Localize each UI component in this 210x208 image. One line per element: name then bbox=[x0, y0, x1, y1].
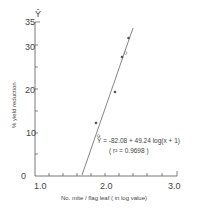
y-hat-label: Ŷ bbox=[35, 9, 41, 19]
x-ticks bbox=[49, 171, 177, 176]
y-tick-20: 20 bbox=[25, 85, 35, 95]
y-axis-label: % yield reduction bbox=[11, 82, 17, 128]
x-tick-1: 1.0 bbox=[34, 181, 47, 191]
regression-equation: Ŷ = -82.08 + 49.24 log(x + 1) bbox=[97, 136, 180, 145]
chart: 35 30 20 10 0 1.0 2.0 3.0 Ŷ % yield redu… bbox=[0, 0, 210, 208]
r-squared: ( r² = 0.9698 ) bbox=[109, 147, 149, 155]
x-tick-3: 3.0 bbox=[168, 181, 181, 191]
y-tick-30: 30 bbox=[25, 42, 35, 52]
y-tick-35: 35 bbox=[25, 17, 35, 27]
x-axis-label: No. mite / flag leaf ( in log value) bbox=[61, 195, 147, 201]
data-point bbox=[127, 37, 130, 40]
data-point bbox=[95, 122, 98, 125]
y-tick-10: 10 bbox=[26, 128, 36, 138]
data-point bbox=[114, 91, 117, 94]
data-point bbox=[121, 56, 124, 59]
y-tick-0: 0 bbox=[21, 171, 26, 181]
x-tick-2: 2.0 bbox=[100, 181, 113, 191]
